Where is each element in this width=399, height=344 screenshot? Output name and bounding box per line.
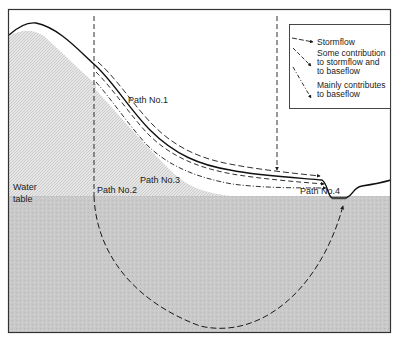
- path1-label: Path No.1: [128, 95, 168, 105]
- path4-label: Path No.4: [300, 186, 340, 196]
- path2-label: Path No.2: [97, 185, 137, 195]
- groundwater-zone: [9, 196, 391, 332]
- hillslope-diagram: Path No.1 Path No.2 Path No.3 Path No.4 …: [0, 0, 399, 344]
- water-table-label-line2: table: [13, 194, 33, 204]
- legend-stormflow-label: Stormflow: [317, 37, 356, 47]
- water-table-label-line1: Water: [13, 182, 37, 192]
- path3-label: Path No.3: [140, 175, 180, 185]
- legend: Stormflow Some contribution to stormflow…: [290, 25, 391, 109]
- legend-baseflow-label-2: to baseflow: [317, 89, 361, 99]
- unsaturated-zone: [9, 31, 230, 196]
- legend-mixed-label-3: to baseflow: [317, 66, 361, 76]
